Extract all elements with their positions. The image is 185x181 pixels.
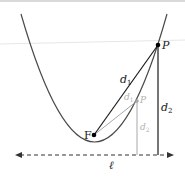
arrow-right-icon	[167, 152, 174, 158]
label-p: P	[161, 39, 170, 52]
label-focus: F	[84, 129, 92, 142]
label-d1-secondary: d1	[124, 92, 134, 103]
parabola-diagram: P F d1 d2 d1 P d2 ℓ	[0, 0, 185, 181]
label-directrix: ℓ	[109, 159, 114, 172]
label-p-secondary: P	[139, 95, 147, 105]
label-d2: d2	[161, 101, 173, 115]
point-p-dot	[156, 43, 161, 48]
label-d1: d1	[120, 73, 132, 87]
point-p-secondary-dot	[135, 99, 139, 103]
arrow-left-icon	[15, 152, 22, 158]
label-d2-secondary: d2	[140, 122, 150, 133]
segment-d1-secondary	[94, 101, 137, 135]
segment-d1	[94, 45, 158, 135]
focus-dot	[92, 133, 97, 138]
